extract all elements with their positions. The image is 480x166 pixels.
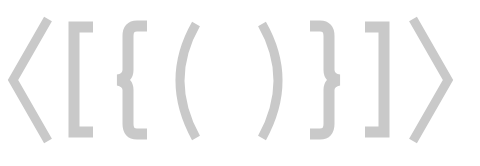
bracket-glyph-row: 〈 [ { ( ) } ] 〉: [0, 0, 480, 166]
right-angle-bracket-icon: [413, 19, 448, 141]
left-angle-bracket-icon: [13, 19, 48, 141]
left-parenthesis-icon: [180, 24, 196, 138]
right-square-bracket-icon: [365, 27, 384, 132]
right-curly-brace-icon: [310, 26, 339, 134]
brackets-graphic: [0, 0, 480, 166]
right-parenthesis-icon: [262, 24, 278, 138]
left-square-bracket-icon: [74, 27, 93, 132]
left-curly-brace-icon: [118, 26, 147, 134]
